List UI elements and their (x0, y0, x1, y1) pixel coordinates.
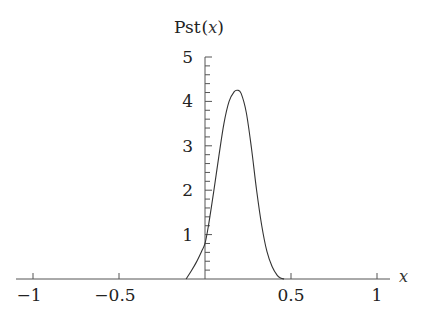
y-axis-title-var: x (208, 18, 217, 37)
x-axis: −1−0.50.51 (16, 273, 390, 305)
y-tick-label: 5 (182, 47, 193, 67)
x-tick-label: −1 (16, 285, 41, 305)
y-axis-title-paren-open: ( (202, 17, 209, 37)
y-tick-label: 4 (182, 91, 193, 111)
y-axis-title-paren-close: ) (217, 17, 224, 37)
y-axis-title-main: Pst (174, 17, 201, 37)
series-line-pst (186, 90, 284, 279)
x-tick-label: 1 (372, 285, 383, 305)
x-tick-label: −0.5 (94, 285, 135, 305)
plot-area (186, 90, 284, 279)
y-axis-title: Pst(x) (174, 17, 224, 37)
x-axis-title: x (399, 267, 408, 286)
chart: −1−0.50.51 12345 Pst(x) x (0, 0, 422, 319)
y-axis: 12345 (182, 47, 212, 279)
x-tick-label: 0.5 (277, 285, 304, 305)
y-tick-label: 3 (182, 136, 193, 156)
y-tick-label: 2 (182, 180, 193, 200)
y-tick-label: 1 (182, 225, 193, 245)
